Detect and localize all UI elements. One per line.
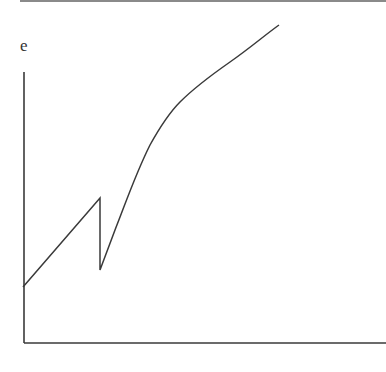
curve xyxy=(23,25,279,287)
diagram-canvas xyxy=(0,0,386,372)
